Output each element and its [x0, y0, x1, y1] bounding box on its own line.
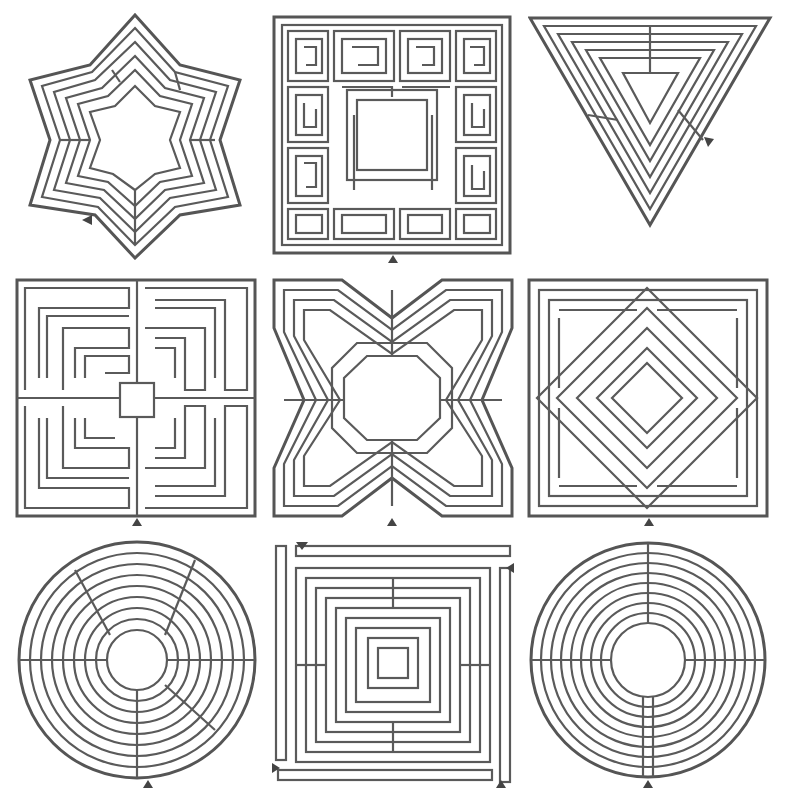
circular-segmented-labyrinth	[15, 540, 260, 790]
circular-concentric-labyrinth	[528, 540, 773, 790]
triangle-labyrinth	[528, 15, 773, 230]
square-spiral-labyrinth	[268, 538, 518, 793]
diamond-in-square-labyrinth	[527, 278, 772, 528]
greek-key-square-labyrinth	[272, 15, 514, 265]
octagon-cross-labyrinth	[272, 278, 517, 528]
square-quadrants-labyrinth	[15, 278, 260, 528]
star-labyrinth	[20, 10, 250, 260]
